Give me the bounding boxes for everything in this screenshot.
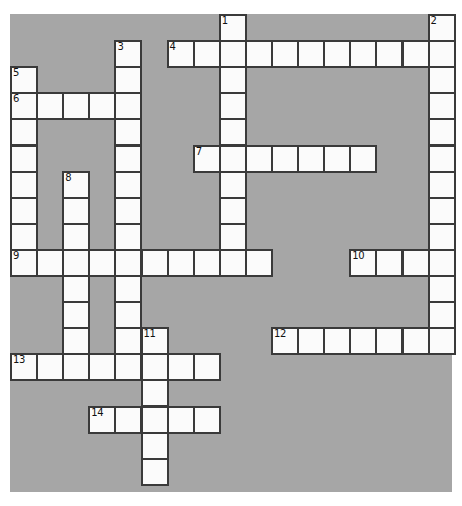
crossword-cell[interactable]	[297, 327, 325, 355]
crossword-cell[interactable]	[141, 406, 169, 434]
crossword-cell-start-1[interactable]: 1	[219, 14, 247, 42]
crossword-cell[interactable]	[323, 40, 351, 68]
crossword-cell-start-2[interactable]: 2	[428, 14, 456, 42]
crossword-cell[interactable]	[219, 40, 247, 68]
crossword-cell[interactable]	[114, 301, 142, 329]
crossword-cell[interactable]	[428, 118, 456, 146]
crossword-cell[interactable]	[114, 275, 142, 303]
crossword-cell[interactable]	[297, 145, 325, 173]
crossword-cell-start-9[interactable]: 9	[10, 249, 38, 277]
crossword-cell[interactable]	[219, 145, 247, 173]
crossword-cell-start-4[interactable]: 4	[167, 40, 195, 68]
crossword-cell[interactable]	[62, 249, 90, 277]
crossword-cell[interactable]	[219, 92, 247, 120]
crossword-cell[interactable]	[114, 92, 142, 120]
crossword-cell[interactable]	[271, 40, 299, 68]
crossword-cell[interactable]	[114, 118, 142, 146]
crossword-cell-start-10[interactable]: 10	[349, 249, 377, 277]
crossword-cell[interactable]	[428, 327, 456, 355]
crossword-cell[interactable]	[36, 92, 64, 120]
crossword-cell[interactable]	[219, 223, 247, 251]
crossword-cell[interactable]	[141, 432, 169, 460]
crossword-cell[interactable]	[62, 353, 90, 381]
crossword-cell[interactable]	[114, 249, 142, 277]
crossword-cell-start-14[interactable]: 14	[88, 406, 116, 434]
crossword-cell[interactable]	[271, 145, 299, 173]
crossword-cell[interactable]	[297, 40, 325, 68]
crossword-cell[interactable]	[114, 353, 142, 381]
crossword-cell[interactable]	[141, 353, 169, 381]
crossword-cell[interactable]	[141, 379, 169, 407]
crossword-cell[interactable]	[167, 406, 195, 434]
crossword-cell[interactable]	[10, 145, 38, 173]
crossword-cell[interactable]	[36, 353, 64, 381]
crossword-cell[interactable]	[10, 118, 38, 146]
crossword-cell[interactable]	[375, 40, 403, 68]
crossword-cell[interactable]	[402, 327, 430, 355]
crossword-cell-start-11[interactable]: 11	[141, 327, 169, 355]
crossword-cell[interactable]	[245, 145, 273, 173]
crossword-cell[interactable]	[62, 301, 90, 329]
crossword-cell[interactable]	[428, 275, 456, 303]
crossword-cell[interactable]	[349, 40, 377, 68]
crossword-cell[interactable]	[428, 171, 456, 199]
crossword-cell[interactable]	[114, 406, 142, 434]
crossword-cell[interactable]	[428, 197, 456, 225]
crossword-cell[interactable]	[114, 327, 142, 355]
crossword-cell-start-5[interactable]: 5	[10, 66, 38, 94]
crossword-cell[interactable]	[323, 145, 351, 173]
crossword-cell[interactable]	[141, 249, 169, 277]
crossword-cell[interactable]	[428, 223, 456, 251]
crossword-cell[interactable]	[375, 249, 403, 277]
crossword-cell[interactable]	[10, 197, 38, 225]
crossword-cell[interactable]	[402, 249, 430, 277]
crossword-cell[interactable]	[193, 249, 221, 277]
crossword-cell[interactable]	[219, 66, 247, 94]
crossword-cell-start-7[interactable]: 7	[193, 145, 221, 173]
crossword-cell[interactable]	[167, 353, 195, 381]
crossword-cell[interactable]	[114, 145, 142, 173]
crossword-cell[interactable]	[428, 40, 456, 68]
crossword-cell[interactable]	[219, 171, 247, 199]
crossword-cell[interactable]	[62, 327, 90, 355]
crossword-cell[interactable]	[323, 327, 351, 355]
crossword-cell[interactable]	[245, 249, 273, 277]
crossword-cell[interactable]	[375, 327, 403, 355]
crossword-cell-start-13[interactable]: 13	[10, 353, 38, 381]
crossword-cell[interactable]	[167, 249, 195, 277]
crossword-cell[interactable]	[428, 92, 456, 120]
crossword-cell-start-8[interactable]: 8	[62, 171, 90, 199]
crossword-cell[interactable]	[349, 327, 377, 355]
crossword-cell[interactable]	[193, 406, 221, 434]
crossword-cell[interactable]	[141, 458, 169, 486]
crossword-cell[interactable]	[62, 275, 90, 303]
crossword-cell[interactable]	[193, 353, 221, 381]
crossword-cell[interactable]	[88, 92, 116, 120]
crossword-cell[interactable]	[428, 249, 456, 277]
crossword-cell[interactable]	[428, 66, 456, 94]
crossword-cell-start-6[interactable]: 6	[10, 92, 38, 120]
crossword-cell[interactable]	[62, 197, 90, 225]
crossword-cell[interactable]	[349, 145, 377, 173]
crossword-cell[interactable]	[219, 197, 247, 225]
crossword-cell-start-12[interactable]: 12	[271, 327, 299, 355]
crossword-cell[interactable]	[114, 171, 142, 199]
crossword-cell[interactable]	[245, 40, 273, 68]
crossword-cell[interactable]	[219, 249, 247, 277]
crossword-cell[interactable]	[402, 40, 430, 68]
crossword-cell[interactable]	[10, 171, 38, 199]
crossword-cell[interactable]	[36, 249, 64, 277]
crossword-cell[interactable]	[114, 197, 142, 225]
crossword-cell-start-3[interactable]: 3	[114, 40, 142, 68]
crossword-cell[interactable]	[62, 92, 90, 120]
crossword-cell[interactable]	[62, 223, 90, 251]
crossword-cell[interactable]	[219, 118, 247, 146]
crossword-cell[interactable]	[428, 145, 456, 173]
crossword-cell[interactable]	[114, 66, 142, 94]
crossword-cell[interactable]	[88, 249, 116, 277]
crossword-cell[interactable]	[114, 223, 142, 251]
crossword-cell[interactable]	[88, 353, 116, 381]
crossword-cell[interactable]	[428, 301, 456, 329]
crossword-cell[interactable]	[10, 223, 38, 251]
crossword-cell[interactable]	[193, 40, 221, 68]
